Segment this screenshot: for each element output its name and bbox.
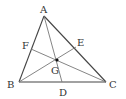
label-d: D	[59, 87, 67, 98]
label-e: E	[77, 37, 84, 48]
label-b: B	[7, 79, 14, 90]
centroid-point	[55, 58, 58, 61]
label-c: C	[109, 79, 117, 90]
triangle-diagram: A B C D E F G	[0, 0, 126, 99]
label-f: F	[22, 40, 29, 51]
label-a: A	[39, 4, 48, 15]
median-cf	[31, 49, 106, 82]
median-be	[19, 47, 76, 82]
label-g: G	[51, 65, 59, 76]
medians	[19, 16, 106, 82]
